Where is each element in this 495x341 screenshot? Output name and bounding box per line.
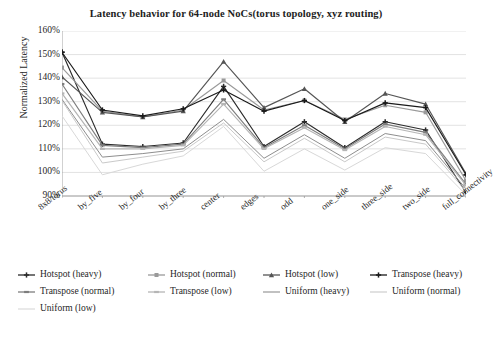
legend-label: Hotspot (heavy) <box>40 270 101 280</box>
x-tick-label: three_side <box>359 181 394 212</box>
legend-label: Transpose (low) <box>170 287 232 297</box>
legend-swatch-icon <box>148 270 165 280</box>
legend-row: Hotspot (heavy)Hotspot (normal)Hotspot (… <box>18 266 468 283</box>
x-tick-label: 8x8/torus <box>36 183 69 212</box>
legend-label: Hotspot (normal) <box>170 270 236 280</box>
legend-label: Uniform (normal) <box>392 287 460 297</box>
legend-row: Uniform (low) <box>18 300 468 317</box>
x-tick-label: edges <box>238 191 260 212</box>
legend-swatch-icon <box>263 287 280 297</box>
legend-item[interactable]: Hotspot (normal) <box>148 266 236 283</box>
legend-swatch-icon <box>370 270 387 280</box>
legend-swatch-icon <box>370 287 387 297</box>
x-tick-label: two_side <box>400 184 432 212</box>
legend-label: Transpose (heavy) <box>392 270 462 280</box>
x-tick-label: odd <box>278 196 295 212</box>
chart-legend: Hotspot (heavy)Hotspot (normal)Hotspot (… <box>18 266 468 317</box>
legend-item[interactable]: Uniform (normal) <box>370 283 460 300</box>
data-point-marker <box>24 272 29 277</box>
x-tick-label: center <box>198 190 221 211</box>
legend-item[interactable]: Transpose (low) <box>148 283 232 300</box>
legend-swatch-icon <box>148 287 165 297</box>
data-point-marker <box>24 290 29 292</box>
x-tick-label: one_side <box>319 184 350 212</box>
data-point-marker <box>376 272 381 277</box>
legend-label: Uniform (low) <box>40 304 96 314</box>
x-tick-label: by_three <box>157 185 188 212</box>
legend-item[interactable]: Transpose (heavy) <box>370 266 462 283</box>
legend-item[interactable]: Hotspot (low) <box>263 266 338 283</box>
x-tick-label: by_four <box>117 186 146 211</box>
legend-item[interactable]: Uniform (heavy) <box>263 283 349 300</box>
legend-swatch-icon <box>18 287 35 297</box>
data-point-marker <box>154 290 159 292</box>
legend-label: Uniform (heavy) <box>285 287 349 297</box>
legend-item[interactable]: Transpose (normal) <box>18 283 114 300</box>
x-tick-label: by_five <box>76 187 104 212</box>
legend-row: Transpose (normal)Transpose (low)Uniform… <box>18 283 468 300</box>
legend-label: Hotspot (low) <box>285 270 338 280</box>
legend-swatch-icon <box>18 270 35 280</box>
legend-swatch-icon <box>263 270 280 280</box>
data-point-marker <box>155 273 159 277</box>
legend-item[interactable]: Hotspot (heavy) <box>18 266 101 283</box>
legend-swatch-icon <box>18 304 35 314</box>
x-tick-label: full_connectivity <box>440 166 495 212</box>
legend-item[interactable]: Uniform (low) <box>18 300 96 317</box>
legend-label: Transpose (normal) <box>40 287 114 297</box>
